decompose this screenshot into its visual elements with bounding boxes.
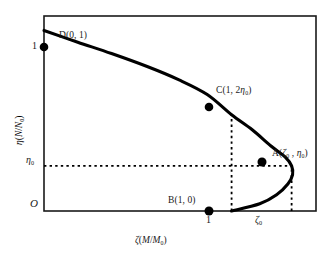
point-a-label: A(ζ0 , η0)	[272, 149, 308, 159]
x-axis-m-num: M	[142, 235, 150, 245]
point-d-label: D(0, 1)	[59, 31, 87, 41]
point-a-prefix: A(	[272, 148, 282, 158]
y-tick-label-1: 1	[32, 41, 37, 51]
y-axis-eta: η	[14, 140, 24, 145]
y-axis-slash: /	[14, 128, 24, 131]
point-c-suffix: )	[248, 85, 251, 95]
point-a-suffix: )	[305, 148, 308, 158]
marker-point-A	[258, 158, 267, 167]
y-axis-n-den: N	[14, 122, 24, 128]
x-tick-label-1: 1	[206, 215, 211, 225]
x-axis-title: ζ(M/M0)	[135, 236, 167, 246]
marker-point-C	[205, 103, 214, 112]
point-a-zeta-sub: 0	[286, 153, 289, 159]
point-c-eta-sub: 0	[245, 90, 248, 96]
eta-zeta-curve	[44, 30, 293, 211]
chart-figure: D(0, 1) C(1, 2η0) A(ζ0 , η0) B(1, 0) 1 η…	[0, 0, 333, 258]
x-axis-m-den: M	[153, 235, 161, 245]
point-c-label: C(1, 2η0)	[216, 86, 252, 96]
origin-label: O	[30, 198, 38, 209]
y-axis-title: η(N/N0)	[14, 116, 24, 145]
x-axis-paren-close: )	[163, 235, 166, 245]
point-c-prefix: C(1, 2	[216, 85, 240, 95]
marker-point-D	[40, 43, 49, 52]
y-tick-eta-sub: 0	[31, 159, 34, 166]
point-a-eta: η	[297, 148, 302, 158]
y-axis-paren-open: (	[14, 137, 24, 140]
y-axis-n-den-sub: 0	[19, 119, 25, 122]
plot-area	[0, 0, 333, 258]
y-axis-n-num: N	[14, 131, 24, 137]
point-b-label: B(1, 0)	[168, 196, 196, 206]
x-tick-label-zeta0: ζ0	[255, 215, 262, 225]
x-tick-zeta-sub: 0	[259, 219, 262, 226]
point-a-eta-sub: 0	[302, 153, 305, 159]
point-a-mid: ,	[289, 148, 296, 158]
y-tick-label-eta0: η0	[26, 155, 34, 165]
